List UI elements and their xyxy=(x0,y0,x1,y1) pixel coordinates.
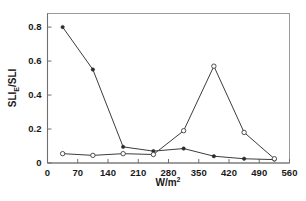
x-tick-label: 280 xyxy=(161,167,177,178)
x-axis-title-base: W/m xyxy=(155,177,176,188)
x-tick-label: 560 xyxy=(282,167,298,178)
y-tick-label: 0.8 xyxy=(28,21,41,32)
x-tick-label: 210 xyxy=(130,167,146,178)
x-tick-label: 70 xyxy=(72,167,83,178)
y-tick-label: 0 xyxy=(36,157,41,168)
y-tick-label: 0.6 xyxy=(28,55,41,66)
x-tick-label: 0 xyxy=(45,167,50,178)
open-circle-marker xyxy=(151,152,155,156)
x-tick-label: 140 xyxy=(100,167,116,178)
y-axis-title-part2: /SLI xyxy=(7,68,18,87)
open-circle-marker xyxy=(121,151,125,155)
open-circle-marker xyxy=(272,157,276,161)
y-axis-title: SLIE/SLI xyxy=(7,68,20,107)
x-tick-label: 490 xyxy=(251,167,267,178)
open-circle-marker xyxy=(91,153,95,157)
filled-circle-marker xyxy=(61,25,64,28)
filled-circle-marker xyxy=(242,157,245,160)
open-circle-marker xyxy=(242,130,246,134)
filled-circle-marker xyxy=(91,68,94,71)
open-circle-marker xyxy=(212,64,216,68)
x-tick-label: 420 xyxy=(221,167,237,178)
y-axis-title-part1: SLI xyxy=(7,92,18,108)
filled-circle-marker xyxy=(212,155,215,158)
x-axis-title-exponent: 2 xyxy=(177,176,181,183)
y-tick-label: 0.2 xyxy=(28,123,41,134)
filled-circle-marker xyxy=(121,145,124,148)
svg-text:SLIE/SLI: SLIE/SLI xyxy=(7,68,20,107)
open-circle-marker xyxy=(60,151,64,155)
line-chart: 00.20.40.60.8 070140210280350420490560 S… xyxy=(0,0,306,201)
open-circle-marker xyxy=(181,129,185,133)
x-axis-tick-labels: 070140210280350420490560 xyxy=(45,167,298,178)
x-tick-label: 350 xyxy=(191,167,207,178)
chart-figure: 00.20.40.60.8 070140210280350420490560 S… xyxy=(0,0,306,201)
filled-circle-marker xyxy=(182,147,185,150)
y-tick-label: 0.4 xyxy=(28,89,42,100)
